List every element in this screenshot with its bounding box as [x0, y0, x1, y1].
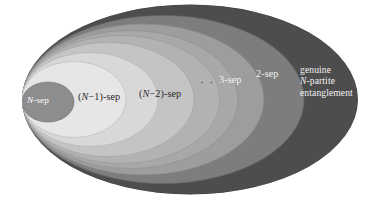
nested-ellipse-diagram: [0, 0, 380, 199]
label-2-sep: 2-sep: [256, 68, 279, 80]
figure-canvas: N-sep (N−1)-sep (N−2)-sep · · · 3-sep 2-…: [0, 0, 380, 199]
label-n-sep-suffix: -sep: [33, 95, 49, 105]
label-n2-suffix: −2)-sep: [149, 88, 181, 99]
label-n-minus-1-sep: (N−1)-sep: [78, 91, 120, 103]
label-genuine-line-1: genuine: [300, 64, 353, 75]
label-n-sep: N-sep: [27, 95, 49, 106]
label-genuine-line-2: N-partite: [300, 75, 353, 86]
label-genuine-n-partite-entanglement: genuine N-partite entanglement: [300, 64, 353, 98]
label-genuine-partite: -partite: [307, 75, 336, 86]
label-genuine-line-3: entanglement: [300, 87, 353, 98]
label-n1-suffix: −1)-sep: [88, 91, 120, 102]
label-n-minus-2-sep: (N−2)-sep: [139, 88, 181, 100]
label-3-sep: 3-sep: [219, 74, 242, 86]
